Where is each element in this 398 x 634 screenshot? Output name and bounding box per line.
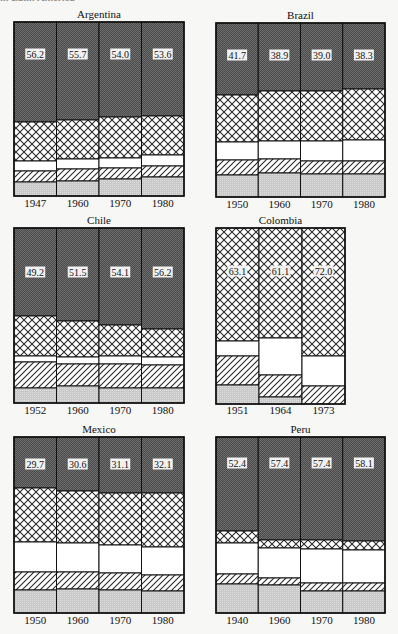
segment-hatch: [343, 583, 385, 591]
segment-light: [216, 175, 258, 197]
segment-light: [259, 397, 302, 404]
segment-white: [216, 341, 259, 356]
panel-argentina: Argentina56.2194755.7196054.0197053.6198…: [14, 8, 184, 209]
segment-cross: [14, 122, 57, 161]
year-label: 1980: [152, 197, 175, 209]
segment-cross: [343, 541, 385, 550]
bar-argentina-1970: 54.0: [99, 22, 142, 196]
bar-colombia-1951: 63.1: [216, 228, 259, 404]
segment-light: [14, 388, 57, 403]
year-label: 1970: [109, 614, 132, 626]
value-label: 58.1: [355, 458, 373, 469]
segment-cross: [301, 91, 343, 141]
segment-hatch: [99, 573, 142, 590]
segment-light: [99, 179, 142, 196]
segment-white: [301, 141, 343, 161]
segment-light: [301, 174, 343, 197]
segment-light: [57, 181, 100, 196]
segment-cross: [14, 316, 57, 356]
segment-hatch: [99, 364, 142, 388]
bar-peru-1960: 57.4: [258, 437, 300, 613]
year-label: 1960: [67, 614, 90, 626]
value-label: 55.7: [69, 49, 87, 60]
segment-light: [142, 177, 185, 196]
segment-hatch: [57, 364, 100, 386]
segment-cross: [99, 117, 142, 158]
segment-light: [216, 584, 258, 613]
bar-brazil-1980: 38.3: [343, 23, 385, 197]
value-label: 53.6: [154, 49, 172, 60]
segment-white: [258, 548, 300, 578]
segment-white: [99, 356, 142, 364]
segment-white: [57, 159, 100, 169]
segment-dark: [216, 437, 258, 531]
year-label: 1970: [311, 614, 334, 626]
year-label: 1947: [24, 197, 47, 209]
bar-peru-1940: 52.4: [216, 437, 258, 613]
year-label: 1940: [226, 614, 249, 626]
segment-white: [142, 357, 185, 365]
panel-brazil: Brazil41.7195038.9196039.0197038.31980: [216, 9, 385, 210]
value-label: 56.2: [154, 267, 172, 278]
segment-hatch: [216, 574, 258, 584]
panel-chile: Chile49.2195251.5196054.1197056.21980: [14, 214, 184, 416]
segment-cross: [216, 95, 258, 142]
segment-dark: [142, 22, 185, 116]
segment-hatch: [57, 169, 100, 181]
panel-title: Chile: [87, 214, 111, 226]
bar-mexico-1980: 32.1: [142, 437, 185, 613]
segment-light: [258, 585, 300, 613]
segment-hatch: [258, 578, 300, 585]
segment-hatch: [216, 160, 258, 175]
segment-hatch: [259, 375, 302, 397]
segment-cross: [216, 531, 258, 543]
segment-dark: [57, 22, 100, 120]
segment-light: [99, 388, 142, 403]
segment-light: [142, 388, 185, 403]
value-label: 56.2: [27, 49, 45, 60]
year-label: 1980: [353, 614, 376, 626]
panel-peru: Peru52.4194057.4196057.4197058.11980: [216, 423, 385, 626]
segment-white: [142, 155, 185, 166]
panel-title: Peru: [290, 423, 311, 435]
segment-light: [99, 590, 142, 613]
bar-colombia-1964: 61.1: [259, 228, 302, 404]
panel-colombia: Colombia63.1195161.1196472.01973: [216, 214, 345, 416]
segment-cross: [142, 493, 185, 547]
segment-white: [14, 542, 57, 572]
segment-light: [258, 173, 300, 197]
year-label: 1973: [313, 404, 336, 416]
value-label: 41.7: [228, 50, 246, 61]
bar-colombia-1973: 72.0: [302, 228, 345, 404]
value-label: 49.2: [27, 267, 45, 278]
segment-light: [216, 385, 259, 404]
segment-white: [99, 158, 142, 168]
segment-white: [99, 545, 142, 573]
bar-mexico-1970: 31.1: [99, 437, 142, 613]
segment-light: [343, 174, 385, 197]
value-label: 39.0: [313, 50, 331, 61]
segment-white: [258, 141, 300, 159]
segment-light: [57, 589, 100, 613]
value-label: 54.1: [112, 267, 130, 278]
segment-cross: [57, 120, 100, 159]
bar-brazil-1970: 39.0: [301, 23, 343, 197]
segment-dark: [343, 437, 385, 541]
segment-hatch: [14, 171, 57, 182]
segment-hatch: [343, 161, 385, 174]
chart-canvas: Argentina56.2194755.7196054.0197053.6198…: [0, 0, 398, 634]
segment-white: [142, 547, 185, 575]
year-label: 1964: [270, 404, 293, 416]
segment-cross: [259, 228, 302, 338]
bar-argentina-1947: 56.2: [14, 22, 57, 196]
panel-title: Mexico: [82, 423, 116, 435]
value-label: 57.4: [313, 458, 331, 469]
segment-hatch: [14, 572, 57, 590]
segment-cross: [302, 228, 345, 356]
segment-dark: [301, 437, 343, 540]
value-label: 38.9: [271, 50, 289, 61]
segment-white: [57, 543, 100, 572]
segment-white: [216, 142, 258, 160]
value-label: 54.0: [112, 49, 130, 60]
segment-light: [14, 590, 57, 613]
